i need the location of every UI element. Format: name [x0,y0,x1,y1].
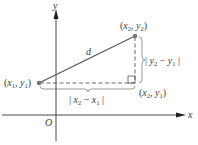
point-p1-label: (x1, y1) [4,77,31,89]
y-axis-label: y [52,0,58,11]
x-axis-label: x [187,109,193,120]
horizontal-length-label: | x2 − x1 | [69,94,104,106]
vertical-length-label: | y2 − y1 | [145,55,180,67]
x-axis [2,113,186,118]
right-angle-marker [128,76,135,83]
point-p1 [37,81,42,86]
point-p2-label: (x2, y2) [120,20,147,32]
corner-point-label: (x2, y1) [139,87,166,99]
distance-formula-diagram: y x O d (x2, y2) (x1, y1) (x2, y1) | x2 … [0,0,198,145]
x-axis-arrow-icon [176,113,186,118]
distance-segment [39,36,135,83]
horizontal-brace [40,86,135,92]
point-p2 [133,34,138,39]
distance-label: d [86,46,92,57]
origin-label: O [45,117,52,128]
